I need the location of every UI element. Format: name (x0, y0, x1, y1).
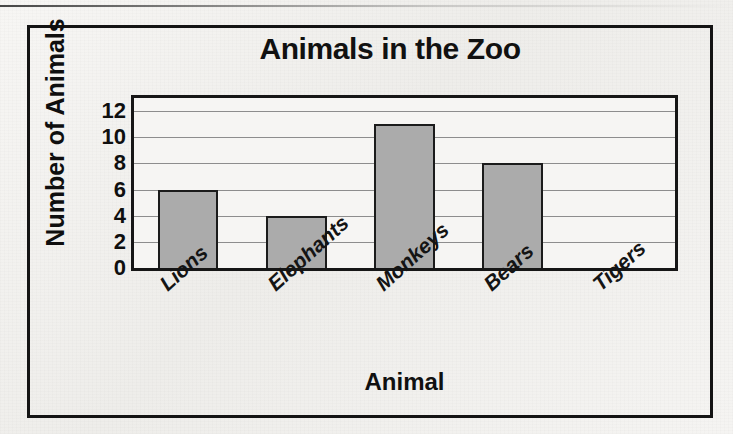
scan-artifact-line (0, 5, 733, 7)
plot-area (131, 95, 678, 271)
y-tick-12: 12 (82, 100, 126, 122)
x-axis-tick-labels: LionsElephantsMonkeysBearsTigers (131, 278, 678, 368)
y-tick-8: 8 (82, 152, 126, 174)
x-axis-title: Animal (131, 368, 678, 396)
y-tick-4: 4 (82, 205, 126, 227)
y-axis-title: Number of Animals (41, 18, 70, 248)
gridline (134, 111, 675, 112)
y-tick-10: 10 (82, 126, 126, 148)
y-tick-0: 0 (82, 257, 126, 279)
y-tick-6: 6 (82, 179, 126, 201)
chart-title: Animals in the Zoo (150, 32, 630, 66)
y-axis-tick-labels: 024681012 (78, 95, 126, 271)
y-tick-2: 2 (82, 231, 126, 253)
